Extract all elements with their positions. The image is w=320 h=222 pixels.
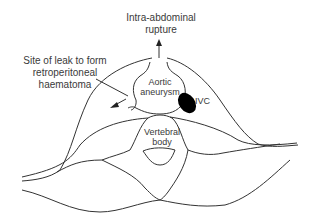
muscle-right-upper bbox=[170, 117, 297, 145]
aortic-label-line1: Aortic bbox=[136, 77, 184, 87]
leak-label-line1: Site of leak to form bbox=[10, 55, 120, 67]
vertebral-body-label: Vertebral body bbox=[140, 127, 184, 147]
ivc-label: IVC bbox=[195, 96, 210, 106]
spinal-canal bbox=[143, 148, 175, 165]
posterior-outline-right bbox=[160, 160, 290, 206]
aortic-label-line2: aneurysm bbox=[136, 87, 184, 97]
rupture-arrowhead bbox=[156, 39, 162, 46]
leak-label: Site of leak to form retroperitoneal hae… bbox=[10, 55, 120, 91]
rupture-label: Intra-abdominal rupture bbox=[118, 12, 204, 36]
vertebral-label-line2: body bbox=[140, 137, 184, 147]
leak-arrowhead bbox=[110, 102, 119, 108]
muscle-left-upper bbox=[22, 118, 148, 177]
vertebral-top-arc bbox=[148, 115, 172, 118]
leak-label-line2: retroperitoneal bbox=[10, 67, 120, 79]
lamina-right bbox=[160, 150, 188, 200]
rupture-label-line2: rupture bbox=[118, 24, 204, 36]
aortic-aneurysm-label: Aortic aneurysm bbox=[136, 77, 184, 97]
vertebral-label-line1: Vertebral bbox=[140, 127, 184, 137]
posterior-outline-left bbox=[22, 190, 160, 212]
leak-label-line3: haematoma bbox=[10, 79, 120, 91]
lamina-left bbox=[102, 160, 160, 200]
vertebral-body-right bbox=[172, 118, 280, 154]
rupture-label-line1: Intra-abdominal bbox=[118, 12, 204, 24]
